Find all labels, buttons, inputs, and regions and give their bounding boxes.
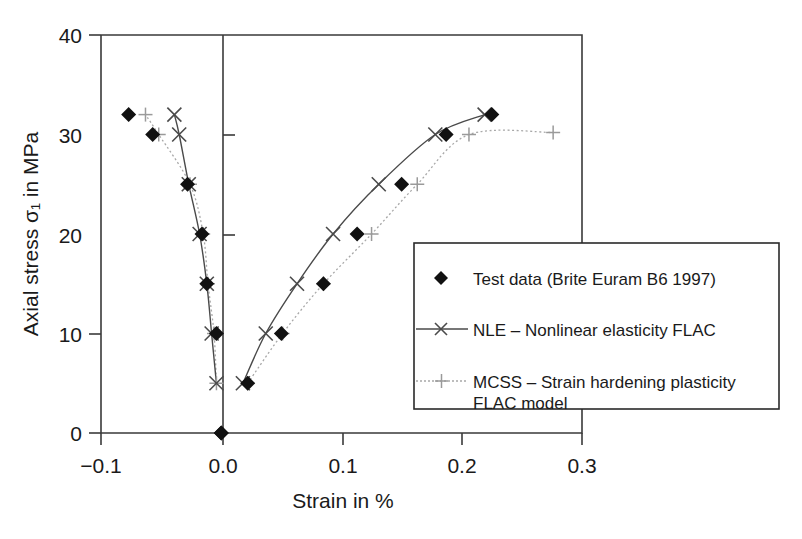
y-tick-label-0: 0 (70, 422, 82, 445)
y-axis-ticks (89, 35, 235, 433)
diamond-marker-icon (214, 426, 229, 441)
diamond-marker-icon (394, 177, 409, 192)
plus-marker-icon (410, 177, 424, 191)
cross-marker-icon (172, 128, 186, 142)
y-axis-title: Axial stress σ₁ in MPa (19, 131, 42, 336)
plus-marker-icon (138, 108, 152, 122)
cross-marker-icon (167, 108, 181, 122)
plus-marker-icon (365, 227, 379, 241)
diamond-marker-icon (121, 107, 136, 122)
cross-marker-icon (259, 327, 273, 341)
legend-entry-test-data[interactable]: Test data (Brite Euram B6 1997) (434, 270, 716, 289)
y-tick-label-30: 30 (59, 124, 82, 147)
series-line-nle (174, 115, 216, 384)
stress-strain-plot: 40 30 20 10 0 −0.1 0.0 0.1 0.2 0.3 Strai… (0, 0, 802, 539)
legend-label-mcss: MCSS – Strain hardening plasticity (473, 373, 736, 392)
legend-label-nle: NLE – Nonlinear elasticity FLAC (473, 321, 716, 340)
diamond-marker-icon (240, 376, 255, 391)
diamond-marker-icon (195, 227, 210, 242)
cross-marker-icon (372, 177, 386, 191)
y-tick-label-20: 20 (59, 224, 82, 247)
legend-label-mcss-line2: FLAC model (473, 394, 567, 413)
x-axis-title: Strain in % (292, 489, 394, 512)
x-tick-label-neg0p1: −0.1 (80, 454, 121, 477)
y-tick-label-10: 10 (59, 323, 82, 346)
legend-label-test-data: Test data (Brite Euram B6 1997) (473, 270, 716, 289)
diamond-marker-icon (350, 227, 365, 242)
series-line-mcss (146, 115, 217, 384)
diamond-marker-icon (145, 127, 160, 142)
diamond-marker-icon (484, 107, 499, 122)
x-axis-ticks (101, 433, 582, 445)
chart-legend: Test data (Brite Euram B6 1997) NLE – No… (414, 243, 779, 413)
x-tick-label-0p2: 0.2 (447, 454, 476, 477)
chart-figure: 40 30 20 10 0 −0.1 0.0 0.1 0.2 0.3 Strai… (0, 0, 802, 539)
cross-marker-icon (290, 277, 304, 291)
plus-marker-icon (462, 128, 476, 142)
x-tick-label-0p3: 0.3 (567, 454, 596, 477)
cross-marker-icon (326, 227, 340, 241)
y-tick-label-40: 40 (59, 24, 82, 47)
diamond-marker-icon (180, 177, 195, 192)
plus-marker-icon (546, 126, 560, 140)
x-tick-label-0p1: 0.1 (328, 454, 357, 477)
x-tick-label-0p0: 0.0 (208, 454, 237, 477)
